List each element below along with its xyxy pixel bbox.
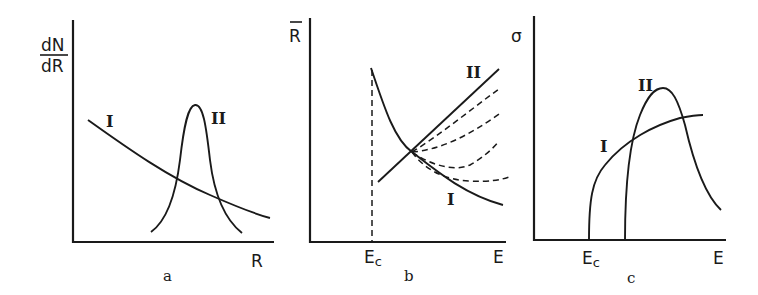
panel-c-curve-I xyxy=(589,115,703,240)
panel-a-y-label-numerator: dN xyxy=(41,35,65,55)
panel-b-threshold-label: Ec xyxy=(364,247,382,269)
panel-c-curve-II-label: II xyxy=(638,76,653,95)
panel-b-dashed-curve-4 xyxy=(412,152,509,181)
panel-a-y-label-denominator: dR xyxy=(41,56,64,76)
panel-a-sublabel: a xyxy=(163,267,172,285)
panel-b-curve-I xyxy=(371,68,503,205)
panel-c: σ II I Ec E c xyxy=(511,16,726,287)
panel-b-dashed-curve-1 xyxy=(412,89,499,152)
panel-c-x-label: E xyxy=(713,248,724,268)
panel-a-curve-I-label: I xyxy=(106,112,113,131)
panel-b: R II I Ec E b xyxy=(289,18,509,285)
panel-a-x-label: R xyxy=(251,251,263,271)
panel-b-curve-I-label: I xyxy=(447,190,454,209)
panel-a: dN dR R a I II xyxy=(40,20,274,285)
panel-a-curve-II xyxy=(151,105,242,233)
panel-b-x-label: E xyxy=(493,247,504,267)
panel-c-y-label: σ xyxy=(511,26,522,46)
panel-b-sublabel: b xyxy=(404,267,414,285)
panel-b-curve-II-label: II xyxy=(466,63,481,82)
panel-c-curve-I-label: I xyxy=(600,137,607,156)
panel-c-threshold-label: Ec xyxy=(582,248,600,270)
panel-c-sublabel: c xyxy=(627,269,635,287)
panel-a-curve-II-label: II xyxy=(211,109,226,128)
panel-b-dashed-curve-3 xyxy=(412,141,499,168)
panel-b-y-label: R xyxy=(289,26,301,46)
panel-b-dashed-curve-2 xyxy=(412,114,499,152)
panel-c-curve-II xyxy=(625,88,721,240)
figure: dN dR R a I II R II I Ec E b xyxy=(0,0,758,295)
